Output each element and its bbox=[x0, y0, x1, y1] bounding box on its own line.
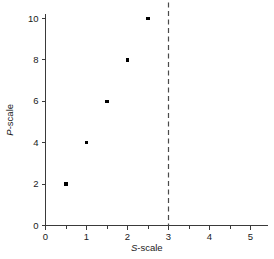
x-tick-label-0: 0 bbox=[43, 231, 48, 242]
plot-area: 02468101214161820012345S-scaleP-scale bbox=[0, 0, 274, 259]
data-point bbox=[146, 17, 149, 20]
y-tick-label-6: 6 bbox=[33, 95, 38, 106]
data-point bbox=[105, 100, 108, 103]
data-point bbox=[85, 141, 88, 144]
data-point bbox=[64, 182, 67, 185]
y-axis-title: P-scale bbox=[4, 104, 15, 136]
x-tick-label-5: 5 bbox=[248, 231, 253, 242]
x-axis-title: S-scale bbox=[131, 242, 163, 253]
scatter-chart: 02468101214161820012345S-scaleP-scale bbox=[0, 0, 274, 259]
x-tick-label-2: 2 bbox=[125, 231, 130, 242]
y-tick-label-2: 2 bbox=[33, 178, 38, 189]
y-tick-label-4: 4 bbox=[33, 137, 38, 148]
y-tick-label-10: 10 bbox=[28, 13, 39, 24]
data-point bbox=[126, 58, 129, 61]
x-tick-label-3: 3 bbox=[166, 231, 171, 242]
x-tick-label-4: 4 bbox=[207, 231, 212, 242]
y-tick-label-8: 8 bbox=[33, 54, 38, 65]
y-tick-label-0: 0 bbox=[33, 220, 38, 231]
x-tick-label-1: 1 bbox=[84, 231, 89, 242]
